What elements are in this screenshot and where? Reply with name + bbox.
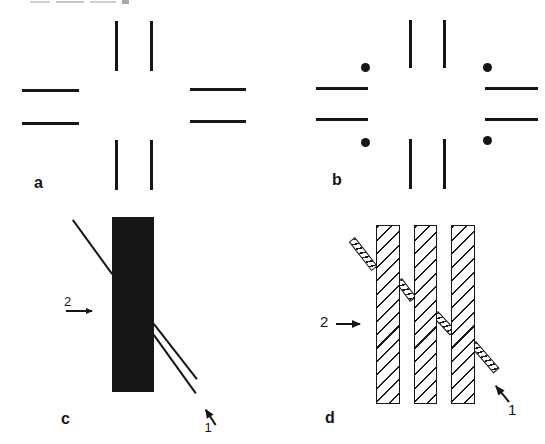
marker-1-label: 1 <box>205 421 212 434</box>
bottom-vertical-line-left <box>409 139 412 189</box>
transversal-line-lower-a <box>153 323 197 379</box>
hatched-band-segment-1 <box>349 237 378 271</box>
occluder-rectangle <box>112 217 154 392</box>
arrow-up-left-icon <box>495 385 509 402</box>
marker-1-label: 1 <box>508 402 516 417</box>
artifact-dash <box>30 1 50 3</box>
arrow-right-icon <box>336 323 360 325</box>
panel-label-c: c <box>61 411 70 427</box>
top-vertical-line-left <box>409 20 412 68</box>
artifact-mark <box>122 0 129 4</box>
left-horizontal-line-bottom <box>316 118 368 121</box>
bottom-vertical-line-right <box>443 139 446 189</box>
corner-dot-top-right <box>483 63 492 72</box>
arrow-right-icon <box>66 310 92 312</box>
corner-dot-bottom-right <box>483 136 492 145</box>
artifact-dash <box>90 1 116 3</box>
right-horizontal-line-bottom <box>485 118 538 121</box>
bottom-vertical-line-right <box>150 140 153 190</box>
transversal-line-lower-b <box>153 334 196 393</box>
hatched-bar-3 <box>451 225 475 404</box>
hatched-bar-1 <box>376 225 400 404</box>
marker-2-label: 2 <box>64 295 71 308</box>
figure-canvas: a b 2 1 c 2 <box>0 0 545 444</box>
left-horizontal-line-bottom <box>22 122 79 125</box>
corner-dot-top-left <box>361 63 370 72</box>
left-horizontal-line-top <box>22 89 79 92</box>
panel-label-a: a <box>34 175 43 191</box>
top-vertical-line-right <box>443 20 446 68</box>
marker-2-label: 2 <box>320 314 328 329</box>
hatched-bar-2 <box>414 225 438 404</box>
corner-dot-bottom-left <box>361 138 370 147</box>
left-horizontal-line-top <box>316 87 368 90</box>
top-vertical-line-left <box>115 21 118 71</box>
panel-label-d: d <box>325 410 335 426</box>
transversal-line-upper <box>72 219 113 274</box>
top-vertical-line-right <box>150 21 153 71</box>
artifact-dash <box>56 1 84 3</box>
right-horizontal-line-top <box>485 87 538 90</box>
panel-label-b: b <box>332 172 342 188</box>
right-horizontal-line-top <box>190 88 246 91</box>
right-horizontal-line-bottom <box>190 120 246 123</box>
bottom-vertical-line-left <box>115 140 118 190</box>
